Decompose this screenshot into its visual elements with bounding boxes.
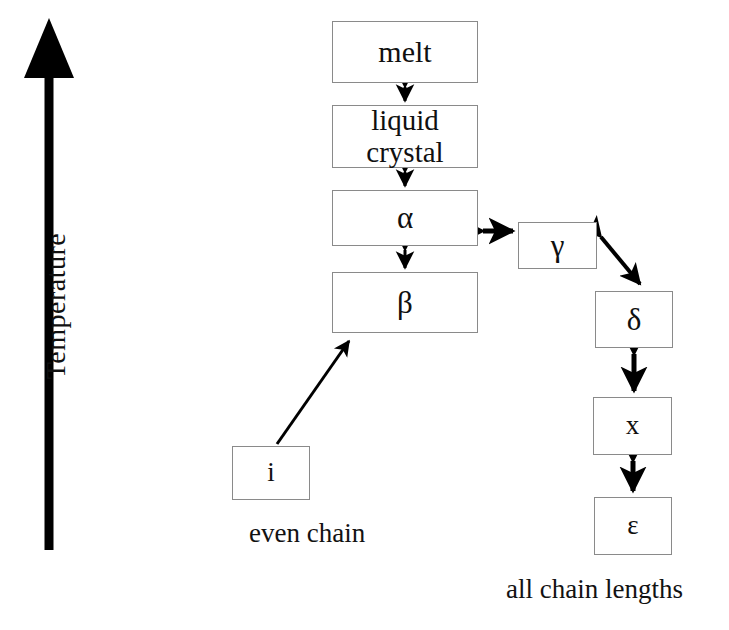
phase-diagram: Temperature <box>0 0 729 630</box>
arrow-gamma-delta <box>601 237 640 284</box>
phase-box-delta-label: δ <box>627 303 642 336</box>
phase-box-beta[interactable]: β <box>332 272 478 333</box>
phase-box-gamma[interactable]: γ <box>518 222 597 269</box>
phase-box-delta[interactable]: δ <box>595 291 673 348</box>
phase-box-gamma-label: γ <box>551 229 565 262</box>
phase-box-liquid-crystal-label: liquid crystal <box>366 105 443 168</box>
caption-all-chain-lengths: all chain lengths <box>506 574 683 605</box>
phase-box-epsilon-label: ε <box>627 511 638 540</box>
phase-box-x[interactable]: x <box>593 397 672 455</box>
phase-box-alpha-label: α <box>397 201 413 234</box>
phase-box-beta-label: β <box>397 286 413 319</box>
phase-box-x-label: x <box>626 411 640 440</box>
phase-box-i-label: i <box>267 458 275 487</box>
phase-box-i[interactable]: i <box>232 446 310 500</box>
phase-box-alpha[interactable]: α <box>332 190 478 246</box>
phase-box-epsilon[interactable]: ε <box>594 497 672 555</box>
caption-even-chain: even chain <box>249 518 365 549</box>
arrow-i-beta <box>277 341 349 444</box>
phase-box-melt-label: melt <box>378 36 431 68</box>
phase-box-liquid-crystal[interactable]: liquid crystal <box>332 105 478 168</box>
phase-box-melt[interactable]: melt <box>332 21 478 83</box>
